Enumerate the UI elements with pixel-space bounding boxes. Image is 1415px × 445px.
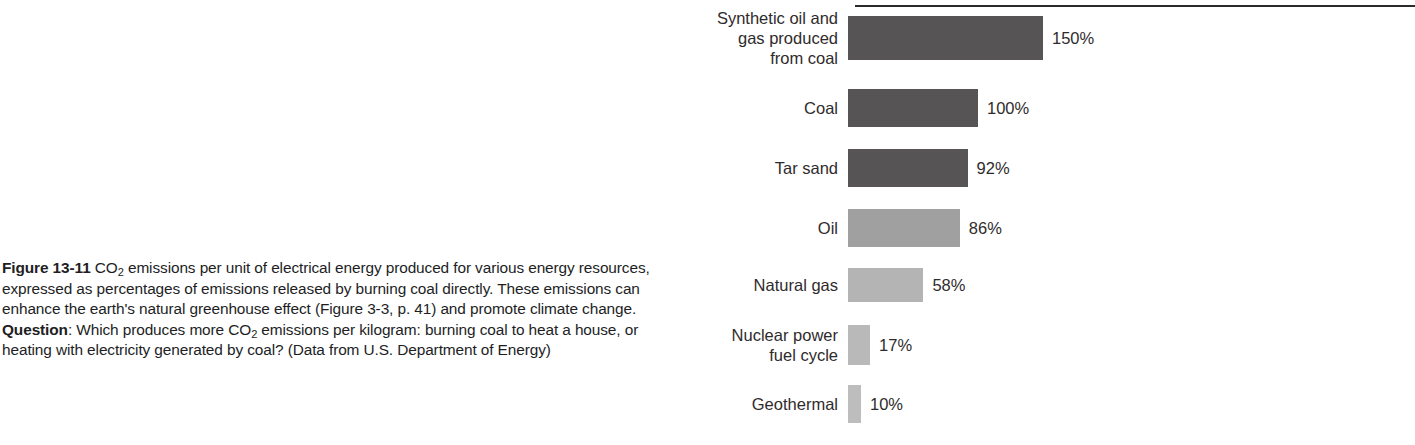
bar-wrap: 17% xyxy=(848,325,912,365)
figure-number: Figure 13-11 xyxy=(2,259,91,276)
bar-category-label: Oil xyxy=(690,218,848,238)
bar-category-label: Nuclear power fuel cycle xyxy=(690,325,848,365)
bar-wrap: 86% xyxy=(848,209,1002,247)
bar-row: Synthetic oil and gas produced from coal… xyxy=(690,16,1328,60)
bar-row: Coal 100% xyxy=(690,89,1328,127)
bar-fill xyxy=(848,149,968,187)
bar-row: Geothermal 10% xyxy=(690,385,1328,423)
bar-category-label: Coal xyxy=(690,98,848,118)
bar-fill xyxy=(848,89,978,127)
bar-value-label: 58% xyxy=(932,276,965,295)
caption-source: (Data from U.S. Department of Energy) xyxy=(288,341,551,358)
caption-text-1: CO xyxy=(95,259,118,276)
bar-value-label: 150% xyxy=(1052,29,1094,48)
bar-chart: Synthetic oil and gas produced from coal… xyxy=(690,0,1328,445)
bar-category-label: Natural gas xyxy=(690,275,848,295)
figure-caption: Figure 13-11 CO2 emissions per unit of e… xyxy=(2,258,674,361)
bar-fill xyxy=(848,325,870,365)
bar-row: Tar sand 92% xyxy=(690,149,1328,187)
bar-value-label: 92% xyxy=(977,159,1010,178)
bar-fill xyxy=(848,268,923,302)
bar-wrap: 100% xyxy=(848,89,1029,127)
bar-fill xyxy=(848,209,960,247)
bar-value-label: 10% xyxy=(870,395,903,414)
bar-value-label: 100% xyxy=(987,99,1029,118)
bar-category-label: Geothermal xyxy=(690,394,848,414)
bar-wrap: 10% xyxy=(848,385,903,423)
bar-category-label: Tar sand xyxy=(690,158,848,178)
question-label: Question xyxy=(2,321,68,338)
bar-wrap: 150% xyxy=(848,16,1094,60)
bar-row: Oil 86% xyxy=(690,209,1328,247)
bar-row: Nuclear power fuel cycle 17% xyxy=(690,325,1328,365)
bar-fill xyxy=(848,16,1043,60)
bar-fill xyxy=(848,385,861,423)
bar-value-label: 86% xyxy=(969,219,1002,238)
bar-row: Natural gas 58% xyxy=(690,268,1328,302)
bar-category-label: Synthetic oil and gas produced from coal xyxy=(690,8,848,68)
bar-wrap: 92% xyxy=(848,149,1010,187)
bar-wrap: 58% xyxy=(848,268,965,302)
bar-value-label: 17% xyxy=(879,336,912,355)
chart-top-rule xyxy=(855,5,1415,7)
question-text-1: : Which produces more CO xyxy=(68,321,251,338)
